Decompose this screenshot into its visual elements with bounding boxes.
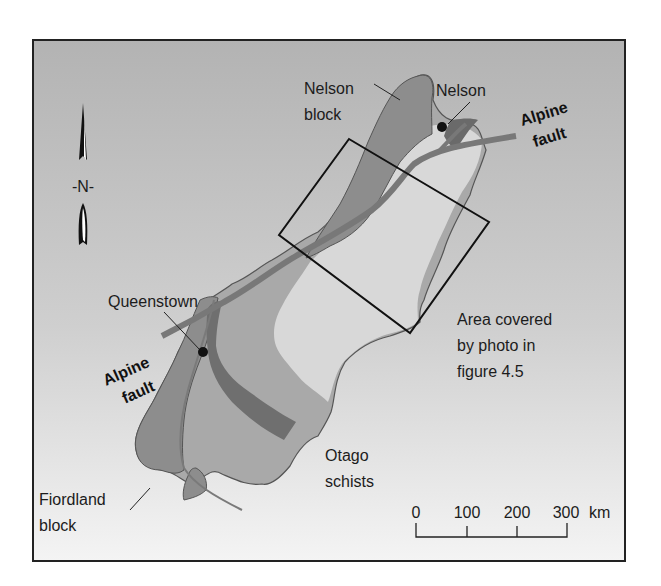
scale-unit: km (589, 504, 610, 521)
label-fiordland-1: Fiordland (39, 491, 106, 508)
scale-tick-0: 0 (412, 504, 421, 521)
map-frame: -N- Nelson block Nelson Alpine fault Que… (32, 39, 626, 562)
label-queenstown: Queenstown (108, 293, 198, 310)
label-fiordland-2: block (39, 517, 77, 534)
label-area-2: by photo in (457, 337, 535, 354)
label-area-3: figure 4.5 (457, 363, 524, 380)
map-canvas: -N- Nelson block Nelson Alpine fault Que… (32, 39, 626, 562)
label-otago-2: schists (325, 473, 374, 490)
label-area-1: Area covered (457, 311, 552, 328)
nelson-city-dot (437, 122, 447, 132)
scale-tick-200: 200 (504, 504, 531, 521)
label-otago-1: Otago (325, 447, 369, 464)
scale-tick-100: 100 (454, 504, 481, 521)
label-nelson-block-2: block (304, 106, 342, 123)
queenstown-city-dot (198, 347, 208, 357)
north-label: -N- (72, 178, 94, 195)
label-nelson-block-1: Nelson (304, 80, 354, 97)
label-nelson-city: Nelson (436, 82, 486, 99)
scale-tick-300: 300 (553, 504, 580, 521)
